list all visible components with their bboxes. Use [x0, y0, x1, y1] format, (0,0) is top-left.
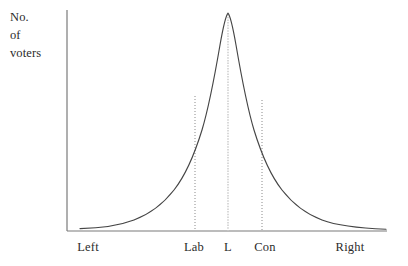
x-tick-label-right: Right	[336, 240, 365, 255]
x-tick-label-l: L	[224, 240, 232, 255]
y-axis-label-line-2: of	[10, 26, 64, 44]
y-axis-label-line-1: No.	[10, 8, 64, 26]
y-axis-label: No. of voters	[10, 8, 64, 62]
bell-curve-path	[80, 13, 386, 229]
x-tick-label-lab: Lab	[184, 240, 204, 255]
x-tick-label-left: Left	[77, 240, 99, 255]
x-tick-label-con: Con	[254, 240, 275, 255]
bell-curve-figure: No. of voters Left Lab L Con Right	[0, 0, 408, 266]
y-axis-label-line-3: voters	[10, 44, 64, 62]
